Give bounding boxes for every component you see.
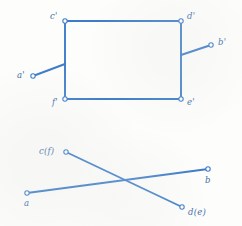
label-b-prime: b'	[218, 38, 226, 47]
label-d-prime: d'	[187, 12, 195, 21]
label-a: a	[24, 199, 29, 208]
edge-a-b	[27, 169, 208, 193]
elevation-view	[31, 19, 213, 101]
vertex-marker-b	[206, 167, 210, 171]
label-c-f: c(f)	[39, 147, 54, 156]
vertex-marker-a-prime	[31, 74, 35, 78]
vertex-marker-e-prime	[179, 97, 183, 101]
vertex-marker-f-prime	[63, 97, 67, 101]
label-c-prime: c'	[50, 12, 58, 21]
vertex-marker-c-prime	[63, 19, 67, 23]
label-b: b	[205, 176, 211, 185]
vertex-marker-d-e	[180, 205, 184, 209]
geometry-canvas	[0, 0, 242, 226]
edge-a-prime-stub	[33, 64, 65, 76]
vertex-marker-a	[25, 191, 29, 195]
vertex-marker-b-prime	[209, 43, 213, 47]
edge-b-prime-stub	[181, 45, 211, 55]
vertex-marker-c-f	[64, 150, 68, 154]
label-a-prime: a'	[17, 71, 25, 80]
vertex-marker-d-prime	[179, 19, 183, 23]
drawing-sheet: c' d' e' f' a' b' c(f) d(e) a b	[0, 0, 242, 226]
plan-view	[25, 150, 210, 209]
label-f-prime: f'	[52, 98, 58, 107]
label-e-prime: e'	[187, 98, 195, 107]
label-d-e: d(e)	[188, 208, 206, 217]
